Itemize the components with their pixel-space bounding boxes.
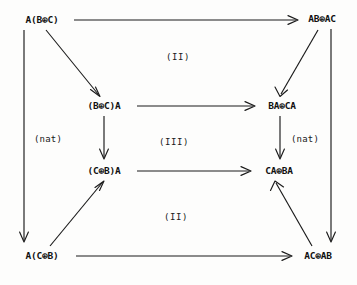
edge-diagonal-bottom-left xyxy=(50,181,104,246)
edge-diagonal-top-left xyxy=(46,30,100,97)
node-outer-bottom-right: AC⊕AB xyxy=(304,251,332,261)
edge-top-horizontal xyxy=(74,16,298,25)
edge-outer-right-vertical xyxy=(327,29,336,242)
edge-diagonal-bottom-right xyxy=(271,181,313,246)
edge-inner-left-vertical xyxy=(100,116,109,159)
region-label-middle: (III) xyxy=(159,138,189,147)
node-outer-top-left: A(B⊕C) xyxy=(25,15,58,25)
edge-label-nat-right: (nat) xyxy=(291,135,319,144)
commutative-diagram-page: A(B⊕C) AB⊕AC (B⊕C)A BA⊕CA (C⊕B)A CA⊕BA A… xyxy=(0,0,357,285)
region-label-bottom: (II) xyxy=(164,213,188,222)
edge-outer-left-vertical xyxy=(20,30,29,242)
edge-bottom-horizontal xyxy=(76,252,292,261)
region-label-top: (II) xyxy=(166,53,190,62)
node-outer-top-right: AB⊕AC xyxy=(308,14,336,24)
edge-inner-lower-horizontal xyxy=(137,167,251,176)
edge-label-nat-left: (nat) xyxy=(34,135,62,144)
node-outer-bottom-left: A(C⊕B) xyxy=(25,251,58,261)
node-inner-upper-right: BA⊕CA xyxy=(268,101,296,111)
node-inner-upper-left: (B⊕C)A xyxy=(87,101,120,111)
edge-inner-right-vertical xyxy=(276,116,285,159)
node-inner-lower-left: (C⊕B)A xyxy=(87,166,120,176)
edge-diagonal-top-right xyxy=(275,30,318,97)
node-inner-lower-right: CA⊕BA xyxy=(265,166,293,176)
edge-inner-upper-horizontal xyxy=(137,102,255,111)
